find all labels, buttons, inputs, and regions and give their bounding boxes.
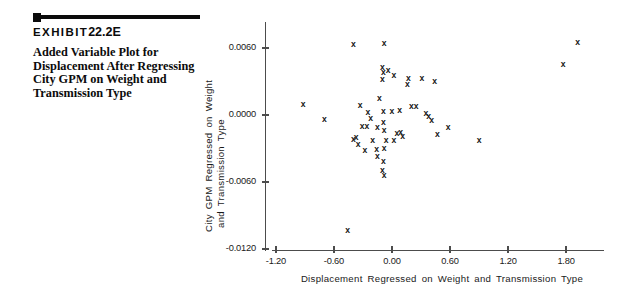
x-axis-tick-label: 1.80 [544,256,588,266]
data-point: x [361,146,369,155]
data-point: x [418,74,426,83]
y-axis-tick-label: 0.0060 [208,42,256,52]
x-axis-tick [449,246,450,253]
data-point: x [403,80,411,89]
data-point: x [378,75,386,84]
data-point: x [396,106,404,115]
x-axis-tick [391,246,392,253]
data-point: x [375,94,383,103]
x-axis-line [272,250,604,251]
data-point: x [390,136,398,145]
data-point: x [412,102,420,111]
data-point: x [475,136,483,145]
data-point: x [344,226,352,235]
data-point: x [559,60,567,69]
exhibit-figure: EXHIBIT22.2E Added Variable Plot for Dis… [0,0,636,296]
data-point: x [431,77,439,86]
data-point: x [399,132,407,141]
x-axis-tick-label: -1.20 [254,256,298,266]
x-axis-tick-label: 0.00 [370,256,414,266]
data-point: x [379,107,387,116]
y-axis-tick [262,114,269,115]
x-axis-tick-label: 0.60 [428,256,472,266]
x-axis-tick-label: -0.60 [312,256,356,266]
data-point: x [349,40,357,49]
y-axis-tick-label: 0.0000 [208,109,256,119]
x-axis-tick [507,246,508,253]
x-axis-tick [275,246,276,253]
y-axis-line [265,22,266,251]
data-point: x [433,130,441,139]
data-point: x [320,115,328,124]
y-axis-tick [262,181,269,182]
y-axis-tick [262,47,269,48]
x-axis-tick [565,246,566,253]
data-point: x [299,100,307,109]
data-point: x [380,126,388,135]
data-point: x [390,71,398,80]
scatter-plot: 0.00600.0000-0.0060-0.0120 -1.20-0.600.0… [0,0,636,296]
y-axis-title-line1: City GPM Regressed on Weight [203,80,214,232]
data-point: x [444,123,452,132]
y-axis-tick [262,248,269,249]
x-axis-tick [333,246,334,253]
data-point: x [380,39,388,48]
y-axis-title-line2: and Transmission Type [215,119,226,228]
y-axis-tick-label: -0.0120 [208,243,256,253]
x-axis-title: Displacement Regressed on Weight and Tra… [252,273,632,284]
data-point: x [363,122,371,131]
x-axis-tick-label: 1.20 [486,256,530,266]
data-point: x [428,116,436,125]
data-point: x [380,171,388,180]
data-point: x [574,38,582,47]
